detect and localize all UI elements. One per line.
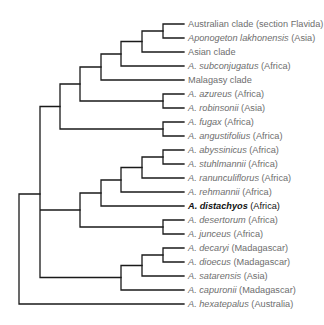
leaf-label: A. azureus (Africa): [188, 88, 264, 100]
leaf-label: A. angustifolius (Africa): [188, 130, 282, 142]
leaf-label: A. subconjugatus (Africa): [188, 60, 291, 72]
leaf-label: A. ranunculiflorus (Africa): [188, 172, 291, 184]
leaf-label: Asian clade: [188, 46, 236, 58]
leaf-label: A. dioecus (Madagascar): [188, 256, 290, 268]
leaf-label: A. robinsonii (Asia): [188, 102, 265, 114]
leaf-label-highlighted: A. distachyos (Africa): [188, 200, 280, 212]
leaf-label: Australian clade (section Flavida): [188, 18, 323, 30]
leaf-label: A. hexatepalus (Australia): [188, 298, 293, 310]
leaf-label: A. stuhlmannii (Africa): [188, 158, 278, 170]
leaf-label: A. decaryi (Madagascar): [188, 242, 288, 254]
leaf-label: A. abyssinicus (Africa): [188, 144, 279, 156]
leaf-label: A. satarensis (Asia): [188, 270, 268, 282]
leaf-label: A. junceus (Africa): [188, 228, 263, 240]
leaf-label: Malagasy clade: [188, 74, 252, 86]
leaf-label: A. desertorum (Africa): [188, 214, 278, 226]
leaf-label: A. capuronii (Madagascar): [188, 284, 296, 296]
leaf-label: A. fugax (Africa): [188, 116, 254, 128]
leaf-label: A. rehmannii (Africa): [188, 186, 272, 198]
leaf-label: Aponogeton lakhonensis (Asia): [188, 32, 315, 44]
